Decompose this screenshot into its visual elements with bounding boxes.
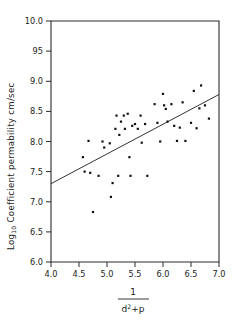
data-point <box>144 123 146 125</box>
data-point <box>156 122 158 124</box>
data-point <box>198 107 200 109</box>
x-axis-title-numerator: 1 <box>130 287 136 297</box>
x-axis-title-denominator: d2+p <box>122 303 145 314</box>
x-axis-title-den-rest: +p <box>131 304 145 314</box>
data-point <box>103 146 105 148</box>
x-tick-label: 4.0 <box>44 269 57 279</box>
data-point <box>137 128 139 130</box>
data-point <box>193 90 195 92</box>
data-point <box>129 175 131 177</box>
data-point <box>165 108 167 110</box>
data-point <box>141 142 143 144</box>
data-point <box>110 196 112 198</box>
regression-line <box>51 95 219 184</box>
data-point <box>176 140 178 142</box>
data-point <box>204 104 206 106</box>
data-point <box>196 127 198 129</box>
scatter-plot-figure: 10.0 95 9.0 8.5 8.0 7.5 7.0 6.5 6.0 4.0 … <box>0 0 250 324</box>
y-axis-title-rest: Coefficient permability cm/sec <box>6 82 16 225</box>
y-tick-label: 7.0 <box>30 197 43 207</box>
data-point <box>92 211 94 213</box>
data-point <box>173 125 175 127</box>
x-tick-label: 5.0 <box>100 269 113 279</box>
x-tick-label: 5.5 <box>128 269 141 279</box>
data-point <box>124 128 126 130</box>
data-point <box>140 114 142 116</box>
data-point <box>170 103 172 105</box>
regression-line-group <box>51 95 219 184</box>
data-point <box>109 142 111 144</box>
data-point <box>127 113 129 115</box>
data-point <box>117 175 119 177</box>
data-point <box>179 127 181 129</box>
y-tick-label: 8.5 <box>30 106 43 116</box>
data-point <box>131 125 133 127</box>
y-axis-ticks <box>46 21 51 262</box>
data-point <box>98 175 100 177</box>
data-point <box>190 122 192 124</box>
plot-frame <box>51 21 219 262</box>
scatter-points-group <box>82 84 210 213</box>
y-axis-title-group: Log10 Coefficient permability cm/sec <box>6 82 17 250</box>
x-axis-tick-labels: 4.0 4.5 5.0 5.5 6.0 6.5 7.0 <box>44 269 225 279</box>
data-point <box>114 128 116 130</box>
y-tick-label: 8.0 <box>30 137 43 147</box>
data-point <box>162 93 164 95</box>
data-point <box>146 175 148 177</box>
y-tick-label: 6.5 <box>30 227 43 237</box>
y-tick-label: 95 <box>33 46 43 56</box>
data-point <box>134 123 136 125</box>
data-point <box>166 121 168 123</box>
x-axis-ticks <box>51 262 219 267</box>
data-point <box>184 140 186 142</box>
data-point <box>82 156 84 158</box>
x-tick-label: 4.5 <box>72 269 85 279</box>
data-point <box>89 172 91 174</box>
axis-frame-path <box>51 21 219 262</box>
y-tick-label: 9.0 <box>30 76 43 86</box>
data-point <box>84 171 86 173</box>
data-point <box>101 140 103 142</box>
data-point <box>208 118 210 120</box>
data-point <box>182 101 184 103</box>
y-tick-label: 7.5 <box>30 167 43 177</box>
x-tick-label: 6.5 <box>184 269 197 279</box>
y-axis-title-subscript: 10 <box>10 226 17 234</box>
x-axis-title-group: 1 d2+p <box>118 287 149 314</box>
y-axis-title: Log10 Coefficient permability cm/sec <box>6 82 17 250</box>
data-point <box>154 103 156 105</box>
data-point <box>120 121 122 123</box>
y-tick-label: 10.0 <box>25 16 43 26</box>
y-axis-tick-labels: 10.0 95 9.0 8.5 8.0 7.5 7.0 6.5 6.0 <box>25 16 43 267</box>
data-point <box>112 182 114 184</box>
data-point <box>115 114 117 116</box>
x-tick-label: 6.0 <box>156 269 169 279</box>
data-point <box>123 114 125 116</box>
data-point <box>87 140 89 142</box>
x-tick-label: 7.0 <box>212 269 225 279</box>
data-point <box>200 84 202 86</box>
y-tick-label: 6.0 <box>30 257 43 267</box>
data-point <box>128 156 130 158</box>
data-point <box>118 134 120 136</box>
data-point <box>159 140 161 142</box>
y-axis-title-main: Log <box>6 234 16 250</box>
data-point <box>163 104 165 106</box>
chart-canvas: 10.0 95 9.0 8.5 8.0 7.5 7.0 6.5 6.0 4.0 … <box>0 0 250 324</box>
